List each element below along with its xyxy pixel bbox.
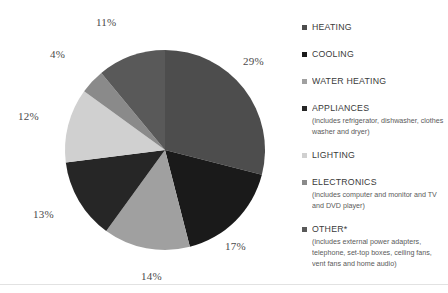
- legend-item-other[interactable]: OTHER*(includes external power adapters,…: [302, 224, 448, 269]
- pie-label-lighting: 12%: [18, 110, 39, 122]
- pie-label-heating: 29%: [243, 55, 264, 67]
- legend-item-heating[interactable]: HEATING: [302, 22, 355, 32]
- legend-label-cooling: COOLING: [312, 49, 354, 59]
- legend-swatch-icon-cooling: [302, 52, 307, 57]
- legend-swatch-icon-water-heating: [302, 79, 307, 84]
- pie-label-cooling: 17%: [225, 240, 246, 252]
- legend-label-other: OTHER*: [312, 224, 347, 234]
- legend-row-water-heating: WATER HEATING: [302, 76, 393, 86]
- legend-description-other: (includes external power adapters, telep…: [312, 236, 444, 269]
- pie-plot-area: 29%17%14%13%12%4%11%: [0, 0, 290, 293]
- legend-item-electronics[interactable]: ELECTRONICS(includes computer and monito…: [302, 177, 448, 211]
- pie-label-water-heating: 14%: [141, 270, 162, 282]
- legend-swatch-icon-electronics: [302, 180, 307, 185]
- legend-label-electronics: ELECTRONICS: [312, 177, 377, 187]
- legend-row-heating: HEATING: [302, 22, 355, 32]
- legend-description-appliances: (includes refrigerator, dishwasher, clot…: [312, 115, 444, 137]
- legend-row-electronics: ELECTRONICS: [302, 177, 448, 187]
- legend-label-heating: HEATING: [312, 22, 352, 32]
- legend-swatch-icon-other: [302, 227, 307, 232]
- legend-row-other: OTHER*: [302, 224, 448, 234]
- legend-swatch-icon-heating: [302, 25, 307, 30]
- legend-row-appliances: APPLIANCES: [302, 103, 448, 113]
- legend-label-water-heating: WATER HEATING: [312, 76, 386, 86]
- legend-row-lighting: LIGHTING: [302, 150, 359, 160]
- legend-item-appliances[interactable]: APPLIANCES(includes refrigerator, dishwa…: [302, 103, 448, 137]
- pie-slice-group: [65, 50, 265, 250]
- legend-item-cooling[interactable]: COOLING: [302, 49, 358, 59]
- legend-item-water-heating[interactable]: WATER HEATING: [302, 76, 393, 86]
- pie-label-other: 11%: [96, 16, 116, 28]
- pie-label-electronics: 4%: [50, 48, 65, 60]
- legend-label-appliances: APPLIANCES: [312, 103, 369, 113]
- legend-swatch-icon-appliances: [302, 106, 307, 111]
- legend-swatch-icon-lighting: [302, 153, 307, 158]
- energy-consumption-pie-chart: 29%17%14%13%12%4%11% HEATINGCOOLINGWATER…: [0, 0, 448, 293]
- legend-description-electronics: (includes computer and monitor and TV an…: [312, 189, 444, 211]
- bottom-divider: [0, 284, 448, 285]
- legend-row-cooling: COOLING: [302, 49, 358, 59]
- pie-label-appliances: 13%: [33, 208, 54, 220]
- legend-label-lighting: LIGHTING: [312, 150, 355, 160]
- legend-item-lighting[interactable]: LIGHTING: [302, 150, 359, 160]
- pie-svg: [0, 0, 290, 293]
